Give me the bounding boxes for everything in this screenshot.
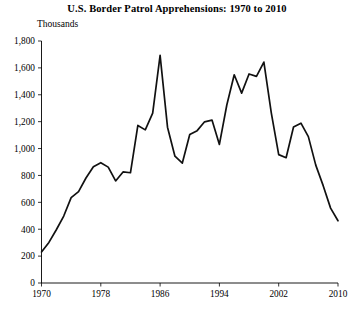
- y-tick-label: 1,200: [14, 117, 35, 127]
- y-tick-label: 400: [21, 225, 35, 235]
- y-tick-label: 1,600: [14, 63, 35, 73]
- x-tick-label: 1978: [92, 289, 111, 299]
- plot-area: 02004006008001,0001,2001,4001,6001,800 1…: [0, 0, 354, 310]
- x-axis-ticks: 197019781986199420022010: [32, 283, 347, 299]
- y-tick-label: 1,800: [14, 36, 35, 46]
- x-tick-label: 2002: [269, 289, 288, 299]
- chart-figure: U.S. Border Patrol Apprehensions: 1970 t…: [0, 0, 354, 310]
- y-tick-label: 0: [30, 278, 35, 288]
- axis-frame: [42, 41, 339, 283]
- y-tick-label: 600: [21, 198, 35, 208]
- x-tick-label: 1986: [151, 289, 170, 299]
- y-axis-ticks: 02004006008001,0001,2001,4001,6001,800: [14, 36, 41, 288]
- x-tick-label: 2010: [329, 289, 348, 299]
- y-tick-label: 200: [21, 251, 35, 261]
- y-tick-label: 800: [21, 171, 35, 181]
- y-tick-label: 1,000: [14, 144, 35, 154]
- y-tick-label: 1,400: [14, 90, 35, 100]
- x-tick-label: 1970: [32, 289, 51, 299]
- data-series-line: [42, 55, 339, 252]
- x-tick-label: 1994: [210, 289, 229, 299]
